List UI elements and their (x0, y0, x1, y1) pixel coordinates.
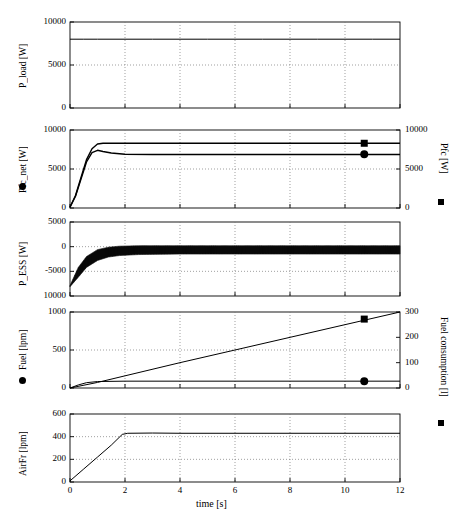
axis-tick-label: 0 (26, 102, 66, 112)
axis-tick-label: 0 (405, 382, 410, 392)
axis-tick-label: 0 (26, 202, 66, 212)
axis-tick-label: 10000 (26, 16, 66, 26)
pfc-legend-square-icon (438, 192, 444, 210)
multi-panel-chart (0, 0, 459, 516)
axis-tick-label: 0 (26, 382, 66, 392)
axis-tick-label: 600 (26, 408, 66, 418)
axis-tick-label: 1000 (26, 306, 66, 316)
x-axis-tick-label: 4 (174, 485, 186, 495)
axis-tick-label: 200 (26, 453, 66, 463)
axis-tick-label: 500 (26, 344, 66, 354)
axis-tick-label: 5000 (26, 59, 66, 69)
x-axis-tick-label: 0 (64, 485, 76, 495)
axis-tick-label: 400 (26, 431, 66, 441)
axis-tick-label: 5000 (26, 163, 66, 173)
x-axis-tick-label: 12 (394, 485, 406, 495)
axis-tick-label: 0 (26, 241, 66, 251)
axis-tick-label: 200 (405, 331, 419, 341)
axis-tick-label: -5000 (26, 265, 66, 275)
ylabel-fuel-consumption: Fuel consumption [l] (437, 305, 449, 409)
x-axis-tick-label: 6 (229, 485, 241, 495)
axis-tick-label: 5000 (405, 163, 423, 173)
axis-tick-label: 0 (405, 202, 410, 212)
ylabel-pfc: Pfc [W] (437, 128, 449, 188)
axis-tick-label: 5000 (26, 216, 66, 226)
pfc-net-legend-circle-icon (19, 176, 26, 194)
axis-tick-label: 100 (405, 357, 419, 367)
x-axis-tick-label: 2 (119, 485, 131, 495)
axis-tick-label: 10000 (26, 290, 66, 300)
x-axis-tick-label: 10 (339, 485, 351, 495)
axis-tick-label: 300 (405, 306, 419, 316)
x-axis-tick-label: 8 (284, 485, 296, 495)
fuel-consumption-legend-square-icon (438, 413, 444, 431)
axis-tick-label: 10000 (26, 124, 66, 134)
xlabel-time: time [s] (196, 498, 227, 509)
fuel-legend-circle-icon (19, 370, 26, 388)
axis-tick-label: 0 (26, 476, 66, 486)
axis-tick-label: 10000 (405, 124, 428, 134)
